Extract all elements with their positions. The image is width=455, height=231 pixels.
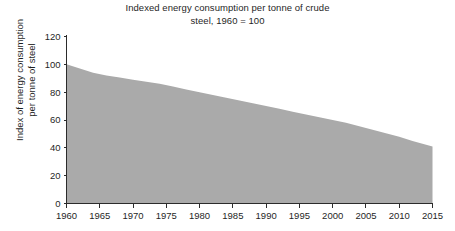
x-tick-label: 1960 <box>56 210 77 221</box>
area-series <box>67 64 433 203</box>
y-tick-label: 0 <box>55 198 60 209</box>
y-tick-label: 120 <box>45 31 61 42</box>
x-tick-label: 1985 <box>222 210 243 221</box>
x-tick-label: 1995 <box>289 210 310 221</box>
x-tick-label: 2000 <box>322 210 343 221</box>
x-tick-label: 2005 <box>355 210 376 221</box>
x-tick-label: 1980 <box>189 210 210 221</box>
x-tick-label: 2010 <box>389 210 410 221</box>
y-tick-label: 60 <box>50 114 61 125</box>
plot-area: 020406080100120 196019651970197519801985… <box>0 0 455 231</box>
x-tick-label: 1975 <box>156 210 177 221</box>
x-tick-label: 1990 <box>256 210 277 221</box>
x-tick-label: 2015 <box>422 210 443 221</box>
y-tick-label: 40 <box>50 142 61 153</box>
chart-figure: Indexed energy consumption per tonne of … <box>0 0 455 231</box>
y-tick-label: 20 <box>50 170 61 181</box>
x-tick-label: 1970 <box>122 210 143 221</box>
y-axis-ticks: 020406080100120 <box>45 31 67 209</box>
y-tick-label: 100 <box>45 59 61 70</box>
x-axis-ticks: 1960196519701975198019851990199520002005… <box>56 204 443 221</box>
x-tick-label: 1965 <box>89 210 110 221</box>
y-tick-label: 80 <box>50 87 61 98</box>
area-fill <box>67 64 433 203</box>
